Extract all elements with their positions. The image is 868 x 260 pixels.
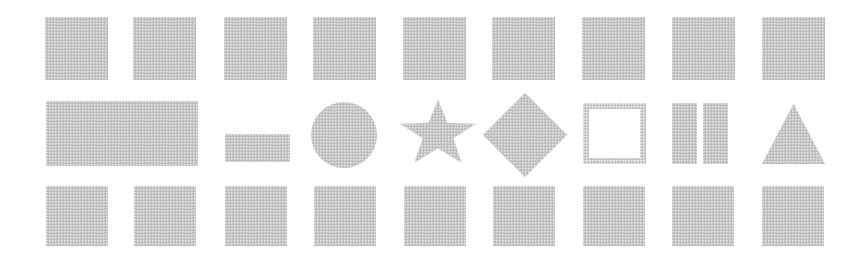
diamond [483, 93, 567, 177]
vertical-bar [672, 103, 697, 164]
square [133, 17, 196, 80]
square [493, 186, 555, 246]
square [492, 17, 555, 80]
square [225, 186, 287, 246]
triangle [762, 104, 825, 164]
square [46, 186, 108, 246]
vertical-bar [703, 103, 728, 164]
square [403, 17, 466, 80]
square [314, 186, 376, 246]
circle [311, 102, 377, 168]
shape-grid-canvas [0, 0, 868, 260]
square [404, 186, 466, 246]
square [45, 17, 108, 80]
square [134, 186, 196, 246]
square [224, 17, 287, 80]
square [313, 17, 376, 80]
square [672, 17, 735, 80]
five-point-star [400, 100, 476, 166]
square [582, 17, 645, 80]
hollow-square [583, 103, 646, 164]
small-rectangle [225, 134, 290, 162]
square [762, 186, 824, 246]
square [583, 186, 645, 246]
square [672, 186, 734, 246]
square [762, 17, 825, 80]
wide-rectangle [46, 101, 198, 166]
hollow-square-interior [589, 109, 640, 158]
